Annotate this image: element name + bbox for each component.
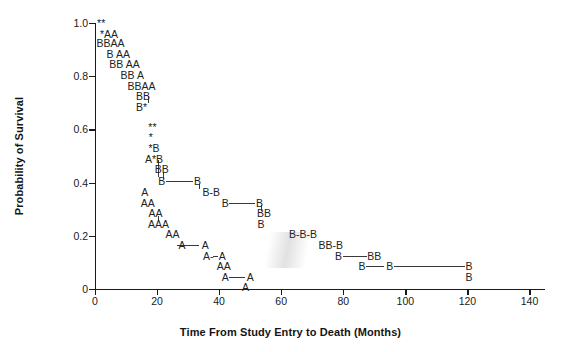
data-marker: B [358,261,365,272]
plot-area: ***AABBAAB AABB AABB ABBAABBB*****BA*BBB… [0,0,581,352]
survival-curve-figure: 00.20.40.60.81.0 020406080100120140 Time… [0,0,581,352]
data-marker: A- [203,251,214,262]
step-segment-horizontal [229,203,254,204]
step-segment-horizontal [166,181,193,182]
data-marker: B [465,272,472,283]
data-marker: B [386,261,393,272]
data-marker: B-B-B [289,229,317,240]
step-segment-horizontal [343,256,367,257]
data-marker: A [222,272,229,283]
data-marker: B [194,176,201,187]
step-segment-horizontal [366,266,384,267]
data-marker: B [258,219,265,230]
data-marker: A [178,240,185,251]
data-marker: B [335,251,342,262]
data-marker: BB [155,164,169,175]
data-marker: B [158,176,165,187]
data-marker: BB [367,251,381,262]
data-marker: B-B [203,187,221,198]
step-segment-horizontal [394,266,464,267]
data-marker: B [222,197,229,208]
step-segment-horizontal [229,277,245,278]
data-marker: B* [136,102,147,113]
data-marker: A [242,282,249,293]
